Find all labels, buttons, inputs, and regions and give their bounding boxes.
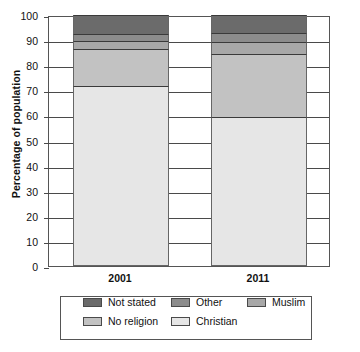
bar-segment-no-religion [73, 49, 169, 86]
legend-item-other: Other [171, 296, 222, 308]
y-axis-tick-label: 100 [8, 10, 38, 22]
y-axis-tick-label: 90 [8, 35, 38, 47]
bar-segment-no-religion [211, 54, 307, 117]
bar-segment-muslim [73, 41, 169, 49]
y-axis-tick-label: 70 [8, 85, 38, 97]
y-axis-tick-label: 0 [8, 261, 38, 273]
legend-swatch-icon [247, 298, 266, 307]
bar-segment-christian [73, 86, 169, 266]
y-axis-tick [44, 117, 49, 118]
y-axis-tick-label: 60 [8, 110, 38, 122]
x-axis-label-2011: 2011 [210, 272, 306, 284]
y-axis-tick [44, 268, 49, 269]
bar-segment-other [211, 33, 307, 42]
bar-2011 [211, 15, 307, 266]
legend: Not statedOtherMuslim No religionChristi… [60, 296, 312, 340]
y-axis-tick [44, 17, 49, 18]
y-axis-tick [44, 193, 49, 194]
legend-item-not-stated: Not stated [83, 296, 156, 308]
y-axis-tick [44, 218, 49, 219]
y-axis-tick-label: 30 [8, 186, 38, 198]
y-axis-tick [44, 168, 49, 169]
plot-area [48, 16, 330, 267]
legend-swatch-icon [83, 298, 102, 307]
y-axis-tick [44, 92, 49, 93]
legend-label: Muslim [272, 296, 305, 308]
x-axis-label-2001: 2001 [72, 272, 168, 284]
legend-swatch-icon [83, 317, 102, 326]
y-axis-tick [44, 42, 49, 43]
y-axis-tick [44, 243, 49, 244]
y-axis-tick [44, 67, 49, 68]
legend-label: Not stated [108, 296, 156, 308]
bar-2001 [73, 15, 169, 266]
legend-item-muslim: Muslim [247, 296, 305, 308]
y-axis-tick-label: 80 [8, 60, 38, 72]
y-axis-tick [44, 143, 49, 144]
y-axis-tick-label: 10 [8, 236, 38, 248]
bar-segment-other [73, 34, 169, 42]
legend-item-christian: Christian [171, 315, 237, 327]
bar-segment-not-stated [73, 15, 169, 34]
legend-label: Other [196, 296, 222, 308]
bar-segment-christian [211, 117, 307, 266]
stacked-bar-chart: Percentage of population 010203040506070… [0, 0, 360, 352]
legend-item-no-religion: No religion [83, 315, 158, 327]
legend-label: Christian [196, 315, 237, 327]
y-axis-tick-label: 50 [8, 136, 38, 148]
legend-swatch-icon [171, 317, 190, 326]
y-axis-tick-label: 40 [8, 161, 38, 173]
legend-label: No religion [108, 315, 158, 327]
y-axis-tick-label: 20 [8, 211, 38, 223]
bar-segment-not-stated [211, 15, 307, 33]
legend-swatch-icon [171, 298, 190, 307]
bar-segment-muslim [211, 42, 307, 54]
